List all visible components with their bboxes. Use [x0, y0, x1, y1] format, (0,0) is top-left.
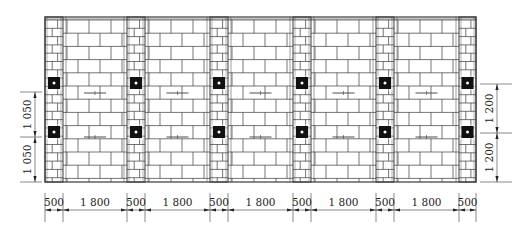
tie-anchor-dot: [53, 82, 56, 85]
dimension-arrow-icon: [388, 208, 394, 211]
tie-anchor-dot: [135, 82, 138, 85]
dimension-arrow-icon: [33, 176, 36, 182]
tie-anchor-dot: [135, 131, 138, 134]
dimension-arrow-icon: [305, 208, 311, 211]
column-outline: [293, 17, 311, 182]
dimension-arrow-icon: [222, 208, 228, 211]
dimension-arrow-icon: [33, 131, 36, 137]
dimension-arrow-icon: [127, 208, 133, 211]
tie-anchor-dot: [384, 131, 387, 134]
tie-anchor-dot: [466, 82, 469, 85]
dimension-arrow-icon: [453, 208, 459, 211]
dimension-arrow-icon: [210, 208, 216, 211]
dimension-arrow-icon: [293, 208, 299, 211]
dimension-arrow-icon: [145, 208, 151, 211]
dimension-arrow-icon: [370, 208, 376, 211]
dimension-label: 1 800: [162, 196, 192, 208]
dimension-arrow-icon: [495, 176, 498, 182]
dimension-label: 500: [457, 196, 477, 208]
dimension-arrow-icon: [204, 208, 210, 211]
dimension-label: 1 800: [328, 196, 358, 208]
brick-panel: [311, 17, 376, 182]
tie-anchor-dot: [384, 82, 387, 85]
dimension-arrow-icon: [228, 208, 234, 211]
dimension-arrow-icon: [57, 208, 63, 211]
column-outline: [376, 17, 394, 182]
column: [210, 17, 228, 182]
left-dimension-chain: 1 0501 050: [20, 92, 42, 182]
column: [376, 17, 394, 182]
column-outline: [210, 17, 228, 182]
dimension-arrow-icon: [33, 92, 36, 98]
dimension-arrow-icon: [287, 208, 293, 211]
brick-panel: [63, 17, 127, 182]
dimension-label: 500: [375, 196, 395, 208]
right-dimension-chain: 1 2001 200: [480, 84, 512, 182]
dimension-arrow-icon: [139, 208, 145, 211]
dimension-arrow-icon: [495, 127, 498, 133]
dimension-arrow-icon: [63, 208, 69, 211]
dimension-label: 1 200: [483, 142, 495, 172]
brick-panel: [394, 17, 459, 182]
dimension-label: 1 050: [21, 144, 33, 174]
dimension-arrow-icon: [459, 208, 465, 211]
dimension-label: 1 800: [80, 196, 110, 208]
column: [45, 17, 63, 182]
column: [459, 17, 476, 182]
dimension-arrow-icon: [394, 208, 400, 211]
tie-anchor-dot: [466, 131, 469, 134]
column: [127, 17, 145, 182]
tie-anchor-dot: [53, 131, 56, 134]
dimension-arrow-icon: [45, 208, 51, 211]
wall-elevation-drawing: 5001 8005001 8005001 8005001 8005001 800…: [0, 0, 527, 231]
dimension-label: 1 800: [245, 196, 275, 208]
dimension-label: 1 800: [411, 196, 441, 208]
dimension-label: 1 200: [483, 93, 495, 123]
column-outline: [127, 17, 145, 182]
dimension-arrow-icon: [495, 84, 498, 90]
dimension-label: 500: [292, 196, 312, 208]
dimension-label: 500: [209, 196, 229, 208]
column: [293, 17, 311, 182]
dimension-arrow-icon: [33, 137, 36, 143]
column-outline: [459, 17, 476, 182]
brick-panel: [228, 17, 293, 182]
tie-anchor-dot: [218, 131, 221, 134]
brick-panel: [145, 17, 210, 182]
tie-anchor-dot: [301, 82, 304, 85]
dimension-arrow-icon: [121, 208, 127, 211]
bottom-dimension-chain: 5001 8005001 8005001 8005001 8005001 800…: [44, 193, 478, 222]
dimension-label: 1 050: [21, 99, 33, 129]
dimension-arrow-icon: [470, 208, 476, 211]
brick-panels: [63, 17, 459, 182]
tie-anchor-dot: [218, 82, 221, 85]
dimension-arrow-icon: [311, 208, 317, 211]
tie-anchor-dot: [301, 131, 304, 134]
dimension-arrow-icon: [495, 133, 498, 139]
dimension-label: 500: [126, 196, 146, 208]
dimension-label: 500: [44, 196, 64, 208]
dimension-arrow-icon: [376, 208, 382, 211]
column-outline: [45, 17, 63, 182]
